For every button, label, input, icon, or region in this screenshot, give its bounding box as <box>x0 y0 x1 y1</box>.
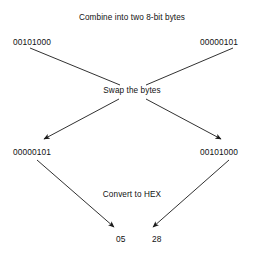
byte-swap-diagram: Combine into two 8-bit bytes 00101000 00… <box>0 0 264 256</box>
connector-swap-to-right <box>146 99 221 139</box>
connector-cross-right-to-left <box>146 48 233 85</box>
hex-result-left: 05 <box>116 235 126 243</box>
connector-swap-to-left <box>44 99 119 139</box>
step-label-swap: Swap the bytes <box>103 87 160 95</box>
hex-result-right: 28 <box>152 235 162 243</box>
swapped-byte-right: 00101000 <box>200 148 238 156</box>
swapped-byte-left: 00000101 <box>13 148 51 156</box>
connector-right-to-hex-2 <box>153 160 229 227</box>
input-byte-left: 00101000 <box>13 38 51 46</box>
diagram-title: Combine into two 8-bit bytes <box>79 14 185 22</box>
step-label-convert: Convert to HEX <box>103 191 161 199</box>
connector-cross-left-to-right <box>30 48 120 85</box>
input-byte-right: 00000101 <box>200 38 238 46</box>
